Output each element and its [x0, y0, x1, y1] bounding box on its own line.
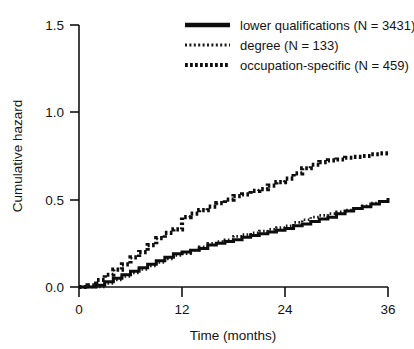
cumulative-hazard-chart: 1.5 1.0 0.5 0.0 0 12 24 36 Time (months)…: [0, 0, 414, 349]
y-tick-labels: 1.5 1.0 0.5 0.0: [45, 18, 64, 295]
legend-label-occupation-specific: occupation-specific (N = 459): [240, 58, 409, 73]
x-tick-label-36: 36: [380, 302, 395, 317]
legend-label-degree: degree (N = 133): [240, 38, 339, 53]
legend: lower qualifications (N = 3431) degree (…: [185, 18, 414, 73]
x-tick-label-12: 12: [174, 302, 189, 317]
y-tick-label-0-0: 0.0: [45, 280, 64, 295]
y-tick-label-1-5: 1.5: [45, 18, 64, 33]
series-group: [79, 153, 388, 287]
x-tick-label-24: 24: [277, 302, 293, 317]
y-tick-label-1-0: 1.0: [45, 105, 64, 120]
series-lower-qualifications: [79, 198, 388, 287]
x-tick-labels: 0 12 24 36: [75, 302, 395, 317]
x-tick-label-0: 0: [75, 302, 83, 317]
y-tick-label-0-5: 0.5: [45, 193, 64, 208]
chart-figure: 1.5 1.0 0.5 0.0 0 12 24 36 Time (months)…: [0, 0, 414, 349]
y-axis-title: Cumulative hazard: [10, 100, 25, 213]
series-occupation-specific: [79, 153, 388, 287]
x-axis-title: Time (months): [190, 328, 277, 343]
legend-label-lower-qualifications: lower qualifications (N = 3431): [240, 18, 414, 33]
